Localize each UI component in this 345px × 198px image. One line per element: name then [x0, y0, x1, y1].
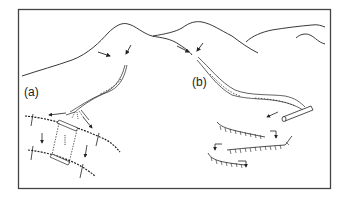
fan-arrow-left [49, 113, 66, 115]
panel-b-label: (b) [192, 75, 207, 89]
panel-a-debris-channel [66, 65, 127, 120]
panel-b-deposit [282, 106, 313, 122]
panel-b-arrow-deposit [267, 112, 278, 117]
panel-b-debris-channel [197, 57, 305, 110]
panel-a-label: (a) [24, 85, 39, 99]
flow-arrows [98, 43, 203, 56]
mountain-ridges [22, 22, 325, 76]
panel-a-roads [25, 116, 120, 176]
diagram-figure: (a) (b) [0, 0, 345, 198]
